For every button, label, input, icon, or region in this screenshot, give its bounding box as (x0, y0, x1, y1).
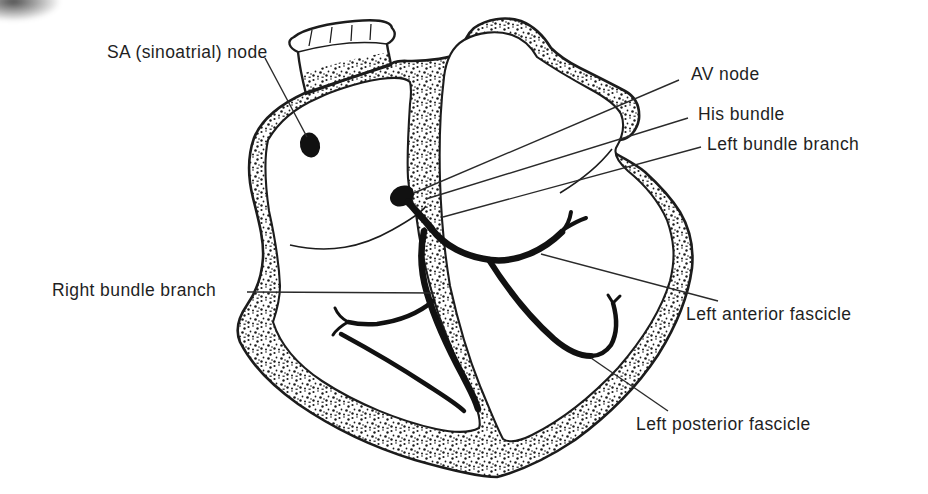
label-av-node: AV node (691, 65, 760, 84)
label-left-anterior-fascicle: Left anterior fascicle (686, 305, 851, 324)
label-sa-node: SA (sinoatrial) node (107, 43, 268, 62)
label-right-bundle-branch: Right bundle branch (52, 281, 216, 300)
label-his-bundle: His bundle (698, 105, 785, 124)
scan-artifact (0, 0, 60, 21)
label-left-bundle-branch: Left bundle branch (707, 135, 859, 154)
figure-canvas: SA (sinoatrial) node AV node His bundle … (0, 0, 928, 494)
label-left-posterior-fascicle: Left posterior fascicle (636, 415, 811, 434)
